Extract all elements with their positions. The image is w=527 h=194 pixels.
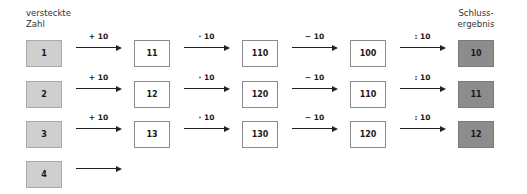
arrow-line bbox=[76, 168, 117, 169]
header-final-result-line2: ergebnis bbox=[446, 19, 506, 30]
op-label: + 10 bbox=[76, 32, 121, 41]
result-box-1: 10 bbox=[458, 40, 494, 67]
op-label: · 10 bbox=[184, 113, 229, 122]
hidden-number-box-1: 1 bbox=[26, 40, 62, 67]
arrow-subtract: − 10 bbox=[292, 116, 337, 130]
op-label: : 10 bbox=[400, 32, 445, 41]
arrow-line bbox=[400, 88, 441, 89]
value-box: 100 bbox=[350, 40, 386, 67]
arrow-subtract: − 10 bbox=[292, 76, 337, 90]
value-box: 11 bbox=[134, 40, 170, 67]
arrow-line bbox=[292, 88, 333, 89]
hidden-number-box-3: 3 bbox=[26, 121, 62, 148]
arrow-multiply: · 10 bbox=[184, 76, 229, 90]
arrow-head-icon bbox=[224, 45, 230, 51]
arrow-line bbox=[292, 47, 333, 48]
op-label: − 10 bbox=[292, 113, 337, 122]
arrow-head-icon bbox=[116, 166, 122, 172]
arrow-line bbox=[400, 128, 441, 129]
op-label: − 10 bbox=[292, 32, 337, 41]
arrow-line bbox=[76, 47, 117, 48]
value-box: 130 bbox=[242, 121, 278, 148]
arrow-head-icon bbox=[116, 86, 122, 92]
arrow-head-icon bbox=[116, 45, 122, 51]
arrow-line bbox=[292, 128, 333, 129]
value-box: 120 bbox=[242, 81, 278, 108]
arrow-head-icon bbox=[440, 126, 446, 132]
arrow-line bbox=[76, 88, 117, 89]
header-hidden-number-line1: versteckte bbox=[26, 8, 71, 19]
op-label: : 10 bbox=[400, 73, 445, 82]
op-label: + 10 bbox=[76, 73, 121, 82]
arrow-head-icon bbox=[224, 126, 230, 132]
arrow-head-icon bbox=[224, 86, 230, 92]
result-box-3: 12 bbox=[458, 121, 494, 148]
header-final-result: Schluss- ergebnis bbox=[446, 8, 506, 30]
arrow-add: + 10 bbox=[76, 35, 121, 49]
arrow-head-icon bbox=[332, 126, 338, 132]
value-box: 12 bbox=[134, 81, 170, 108]
value-box: 110 bbox=[350, 81, 386, 108]
op-label: : 10 bbox=[400, 113, 445, 122]
arrow-add: + 10 bbox=[76, 76, 121, 90]
arrow-multiply: · 10 bbox=[184, 35, 229, 49]
header-hidden-number-line2: Zahl bbox=[26, 19, 71, 30]
op-label: · 10 bbox=[184, 32, 229, 41]
arrow-line bbox=[76, 128, 117, 129]
header-final-result-line1: Schluss- bbox=[446, 8, 506, 19]
arrow-divide: : 10 bbox=[400, 116, 445, 130]
arrow-head-icon bbox=[332, 86, 338, 92]
arrow-add: + 10 bbox=[76, 116, 121, 130]
op-label: − 10 bbox=[292, 73, 337, 82]
arrow-empty bbox=[76, 156, 121, 170]
arrow-line bbox=[184, 128, 225, 129]
arrow-line bbox=[184, 47, 225, 48]
op-label: · 10 bbox=[184, 73, 229, 82]
value-box: 110 bbox=[242, 40, 278, 67]
arrow-head-icon bbox=[440, 86, 446, 92]
result-box-2: 11 bbox=[458, 81, 494, 108]
arrow-line bbox=[184, 88, 225, 89]
op-label: + 10 bbox=[76, 113, 121, 122]
arrow-head-icon bbox=[116, 126, 122, 132]
hidden-number-box-4: 4 bbox=[26, 161, 62, 188]
hidden-number-box-2: 2 bbox=[26, 81, 62, 108]
value-box: 120 bbox=[350, 121, 386, 148]
arrow-line bbox=[400, 47, 441, 48]
arrow-multiply: · 10 bbox=[184, 116, 229, 130]
arrow-head-icon bbox=[332, 45, 338, 51]
arrow-head-icon bbox=[440, 45, 446, 51]
value-box: 13 bbox=[134, 121, 170, 148]
header-hidden-number: versteckte Zahl bbox=[26, 8, 71, 30]
arrow-divide: : 10 bbox=[400, 35, 445, 49]
arrow-divide: : 10 bbox=[400, 76, 445, 90]
arrow-subtract: − 10 bbox=[292, 35, 337, 49]
